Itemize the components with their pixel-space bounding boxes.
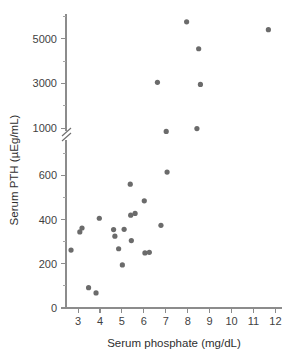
y-tick-label: 200 — [39, 258, 57, 270]
y-tick-label: 600 — [39, 169, 57, 181]
y-tick-label: 5000 — [33, 33, 57, 45]
scatter-plot-figure: 34567891011120200400600100030005000 Seru… — [0, 0, 297, 353]
data-point — [164, 129, 169, 134]
data-points — [68, 19, 271, 295]
data-point — [142, 250, 147, 255]
data-point — [266, 27, 271, 32]
data-point — [155, 80, 160, 85]
x-tick-label: 9 — [207, 315, 213, 327]
axes — [66, 14, 282, 308]
data-point — [86, 285, 91, 290]
data-point — [122, 227, 127, 232]
data-point — [164, 169, 169, 174]
x-tick-label: 8 — [185, 315, 191, 327]
axis-tick-labels: 34567891011120200400600100030005000 — [33, 33, 282, 327]
y-tick-label: 3000 — [33, 77, 57, 89]
data-point — [158, 223, 163, 228]
data-point — [194, 126, 199, 131]
x-tick-label: 3 — [75, 315, 81, 327]
y-tick-label: 400 — [39, 214, 57, 226]
y-axis-title: Serum PTH (µEg/mL) — [8, 114, 20, 225]
data-point — [142, 198, 147, 203]
data-point — [147, 250, 152, 255]
x-tick-label: 11 — [248, 315, 259, 327]
plot-canvas: 34567891011120200400600100030005000 Seru… — [0, 0, 297, 353]
x-tick-label: 12 — [269, 315, 281, 327]
data-point — [128, 182, 133, 187]
data-point — [120, 262, 125, 267]
x-axis-title: Serum phosphate (mg/dL) — [107, 337, 241, 349]
x-tick-label: 5 — [119, 315, 125, 327]
x-tick-label: 4 — [97, 315, 103, 327]
y-tick-label: 0 — [51, 302, 57, 314]
data-point — [184, 19, 189, 24]
axis-ticks — [61, 16, 275, 313]
data-point — [198, 82, 203, 87]
x-tick-label: 7 — [163, 315, 169, 327]
data-point — [97, 216, 102, 221]
data-point — [112, 234, 117, 239]
data-point — [129, 238, 134, 243]
data-point — [93, 290, 98, 295]
data-point — [116, 246, 121, 251]
data-point — [68, 247, 73, 252]
x-tick-label: 6 — [141, 315, 147, 327]
y-tick-label: 1000 — [33, 122, 57, 134]
data-point — [132, 211, 137, 216]
data-point — [111, 227, 116, 232]
x-tick-label: 10 — [225, 315, 237, 327]
data-point — [79, 225, 84, 230]
data-point — [196, 46, 201, 51]
